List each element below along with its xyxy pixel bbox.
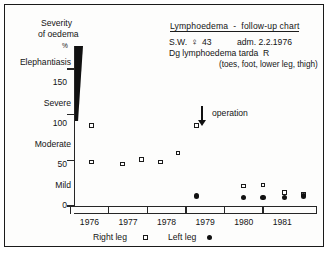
operation-arrow-head-icon (198, 120, 206, 126)
severity-label-elephantiasis: Elephantiasis (11, 58, 71, 67)
y-tick-100: 100 (41, 119, 67, 128)
data-point-right-leg (241, 184, 246, 189)
patient-age: 43 (202, 38, 212, 47)
affected-sites: (toes, foot, lower leg, thigh) (219, 61, 318, 69)
chart-frame: Lymphoedema - follow-up chart S.W. ♀ 43 … (4, 4, 324, 247)
chart-title: Lymphoedema - follow-up chart (170, 22, 299, 32)
legend-marker-right-leg (143, 235, 148, 240)
severity-label-mild: Mild (11, 181, 71, 190)
y-tick-mark (67, 68, 74, 69)
data-point-left-leg (260, 195, 265, 200)
y-tick-mark (67, 114, 74, 115)
y-axis-title-line1: Severity (41, 19, 72, 28)
data-point-left-leg (241, 195, 246, 200)
y-axis-unit: % (62, 43, 68, 50)
x-tick-mark (224, 207, 225, 214)
data-point-left-leg (194, 193, 199, 198)
x-tick-label-1978: 1978 (147, 217, 187, 227)
data-point-right-leg (89, 123, 94, 128)
x-axis-tick-rail (74, 213, 317, 214)
patient-initials: S.W. (169, 38, 187, 47)
data-point-right-leg (139, 157, 144, 162)
data-point-right-leg (261, 183, 266, 188)
legend-marker-left-leg (207, 235, 212, 240)
x-tick-label-1981: 1981 (262, 217, 302, 227)
x-tick-label-1979: 1979 (185, 217, 225, 227)
severity-label-severe: Severe (11, 99, 71, 108)
legend-label-right-leg: Right leg (93, 233, 127, 242)
data-point-right-leg (158, 160, 163, 165)
x-tick-label-1980: 1980 (224, 217, 264, 227)
operation-label: operation (212, 109, 248, 118)
data-point-left-leg (301, 193, 306, 198)
x-axis-end-tick (316, 207, 317, 214)
severity-scale-wedge (75, 46, 83, 121)
y-tick-50: 50 (41, 160, 67, 169)
x-tick-mark (70, 207, 71, 214)
legend-label-left-leg: Left leg (168, 233, 196, 242)
x-axis-line (74, 206, 317, 207)
x-tick-label-1977: 1977 (108, 217, 148, 227)
data-point-right-leg (89, 160, 94, 165)
y-tick-0: 0 (41, 201, 67, 210)
x-tick-mark (147, 207, 148, 214)
admission-date: adm. 2.2.1976 (237, 38, 292, 47)
x-tick-mark (108, 207, 109, 214)
severity-label-moderate: Moderate (11, 140, 71, 149)
y-tick-150: 150 (41, 78, 67, 87)
data-point-left-leg (282, 195, 287, 200)
diagnosis: Dg lymphoedema tarda R (169, 49, 269, 58)
y-tick-mark (67, 160, 74, 161)
data-point-right-leg (120, 162, 125, 167)
sex-symbol-icon: ♀ (191, 37, 198, 46)
y-axis-title-line2: of oedema (38, 30, 79, 39)
data-point-right-leg (176, 151, 181, 156)
x-tick-mark (185, 207, 186, 214)
data-point-right-leg (282, 190, 287, 195)
data-point-right-leg (194, 123, 199, 128)
x-tick-mark (262, 207, 263, 214)
x-tick-label-1976: 1976 (69, 217, 109, 227)
